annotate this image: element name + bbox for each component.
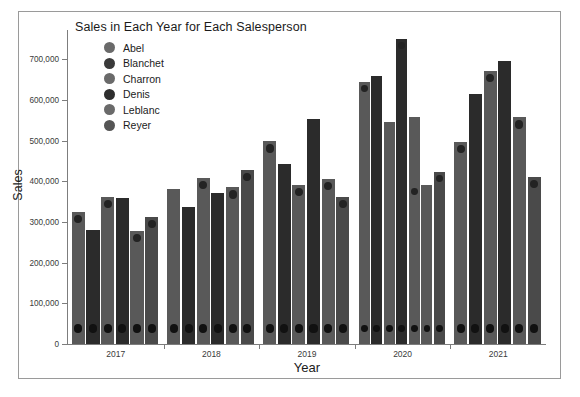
bar-base-marker-dot <box>133 324 141 332</box>
bar-top-marker-dot <box>133 234 141 242</box>
legend-item[interactable]: Reyer <box>104 118 164 134</box>
bar <box>396 39 407 344</box>
bar-base-marker-dot <box>309 324 317 332</box>
bar <box>454 142 467 344</box>
bar-base-marker-dot <box>386 325 393 332</box>
legend-label: Reyer <box>123 119 151 131</box>
x-tick-mark <box>259 344 260 349</box>
bar <box>384 122 395 344</box>
x-tick-mark <box>450 344 451 349</box>
legend-item[interactable]: Denis <box>104 87 164 103</box>
bar-top-marker-dot <box>398 42 405 49</box>
bar <box>226 187 239 344</box>
legend-swatch-dot-icon <box>104 73 115 84</box>
bar-base-marker-dot <box>515 324 523 332</box>
bar-base-marker-dot <box>486 324 494 332</box>
x-tick-label: 2021 <box>489 349 508 359</box>
bar-base-marker-dot <box>243 324 251 332</box>
bar <box>359 82 370 344</box>
bar-base-marker-dot <box>170 324 178 332</box>
bar-base-marker-dot <box>424 325 431 332</box>
bar-base-marker-dot <box>266 324 274 332</box>
bar <box>469 94 482 344</box>
bar <box>211 193 224 344</box>
legend-item[interactable]: Leblanc <box>104 102 164 118</box>
bar-top-marker-dot <box>339 200 347 208</box>
bar-top-marker-dot <box>457 145 465 153</box>
y-tick-label: 300,000 <box>29 217 59 226</box>
x-axis-line <box>67 344 546 345</box>
bar <box>116 198 129 344</box>
bar <box>421 185 432 344</box>
bar-top-marker-dot <box>266 144 274 152</box>
legend-swatch-dot-icon <box>104 42 115 53</box>
bar-top-marker-dot <box>515 120 523 128</box>
bar-top-marker-dot <box>104 200 112 208</box>
bar-base-marker-dot <box>339 324 347 332</box>
legend-swatch-dot-icon <box>104 58 115 69</box>
bar-top-marker-dot <box>411 188 418 195</box>
bar-top-marker-dot <box>361 85 368 92</box>
legend-swatch-dot-icon <box>104 89 115 100</box>
bar-base-marker-dot <box>280 324 288 332</box>
bar-base-marker-dot <box>118 324 126 332</box>
x-tick-label: 2018 <box>202 349 221 359</box>
bar <box>307 119 320 344</box>
bar-base-marker-dot <box>361 325 368 332</box>
bar <box>336 197 349 344</box>
x-axis-title: Year <box>294 360 320 375</box>
bar-base-marker-dot <box>199 324 207 332</box>
bar-base-marker-dot <box>148 324 156 332</box>
bar-base-marker-dot <box>457 324 465 332</box>
bar <box>182 207 195 344</box>
bar <box>101 197 114 344</box>
bar <box>197 178 210 344</box>
bar-base-marker-dot <box>229 324 237 332</box>
bar-base-marker-dot <box>104 324 112 332</box>
y-tick-label: 0 <box>54 340 59 349</box>
x-tick-mark <box>164 344 165 349</box>
bar <box>409 117 420 344</box>
legend-label: Denis <box>123 88 150 100</box>
bar <box>263 141 276 344</box>
bar <box>484 71 497 344</box>
bar <box>167 189 180 344</box>
y-axis-title: Sales <box>11 169 25 200</box>
bar-base-marker-dot <box>74 324 82 332</box>
y-tick-label: 100,000 <box>29 299 59 308</box>
bar-base-marker-dot <box>214 324 222 332</box>
legend-item[interactable]: Blanchet <box>104 56 164 72</box>
bar <box>528 177 541 344</box>
bar <box>513 117 526 344</box>
bar-top-marker-dot <box>229 190 237 198</box>
legend-label: Leblanc <box>123 104 160 116</box>
y-tick-label: 500,000 <box>29 136 59 145</box>
chart-legend: AbelBlanchetCharronDenisLeblancReyer <box>104 40 164 133</box>
bar <box>292 185 305 344</box>
y-tick-label: 600,000 <box>29 95 59 104</box>
x-tick-label: 2020 <box>393 349 412 359</box>
y-tick-label: 400,000 <box>29 177 59 186</box>
bar-base-marker-dot <box>324 324 332 332</box>
bar-base-marker-dot <box>185 324 193 332</box>
bar-base-marker-dot <box>373 325 380 332</box>
x-tick-mark <box>355 344 356 349</box>
bar <box>498 61 511 344</box>
bar-base-marker-dot <box>530 324 538 332</box>
y-tick-label: 700,000 <box>29 55 59 64</box>
bar-base-marker-dot <box>295 324 303 332</box>
bar <box>241 170 254 344</box>
bar-base-marker-dot <box>411 325 418 332</box>
legend-item[interactable]: Abel <box>104 40 164 56</box>
bar-top-marker-dot <box>148 220 156 228</box>
x-tick-label: 2019 <box>298 349 317 359</box>
y-tick-label: 200,000 <box>29 258 59 267</box>
legend-swatch-dot-icon <box>104 120 115 131</box>
bar-base-marker-dot <box>89 324 97 332</box>
legend-label: Blanchet <box>123 57 164 69</box>
legend-label: Abel <box>123 42 144 54</box>
legend-item[interactable]: Charron <box>104 71 164 87</box>
bar-top-marker-dot <box>436 175 443 182</box>
legend-label: Charron <box>123 73 161 85</box>
bar <box>371 76 382 344</box>
